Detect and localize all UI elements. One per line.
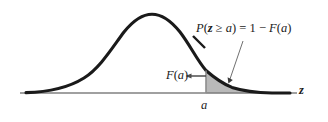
prob-close-paren-2: ) — [287, 21, 291, 35]
cdf-arrow — [186, 73, 207, 78]
axis-z-symbol: z — [299, 83, 304, 97]
axis-a-symbol: a — [201, 98, 207, 112]
axis-tick-label-a: a — [201, 99, 207, 112]
prob-p-symbol: P — [196, 21, 204, 35]
cdf-f-symbol: F — [166, 68, 174, 82]
cdf-expression-label: F(a) — [166, 69, 188, 82]
prob-minus-operator: − — [256, 21, 269, 35]
distribution-plot — [0, 0, 328, 122]
normal-distribution-figure: P(z ≥ a) = 1 − F(a) F(a) a z — [0, 0, 328, 122]
probability-expression-label: P(z ≥ a) = 1 − F(a) — [196, 22, 291, 35]
label-pointer-tick — [193, 36, 205, 48]
prob-equals-operator: = — [236, 21, 249, 35]
cdf-close-paren: ) — [184, 68, 188, 82]
probability-leader-line — [228, 41, 243, 84]
prob-f-symbol: F — [269, 21, 277, 35]
prob-ge-operator: ≥ — [213, 21, 226, 35]
axis-name-label-z: z — [299, 84, 304, 97]
